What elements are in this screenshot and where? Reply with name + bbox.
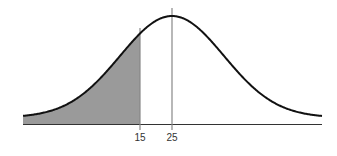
- shaded-left-tail: [23, 34, 140, 124]
- tick-label-25: 25: [166, 132, 178, 143]
- normal-distribution-chart: 15 25: [0, 0, 337, 156]
- tick-label-15: 15: [134, 132, 146, 143]
